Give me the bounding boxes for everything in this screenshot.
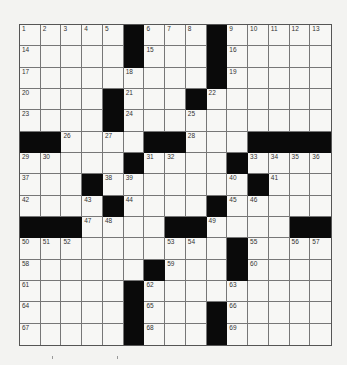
grid-cell[interactable]	[165, 174, 186, 195]
grid-cell[interactable]: 23	[20, 110, 41, 131]
grid-cell[interactable]: 36	[310, 153, 331, 174]
grid-cell[interactable]	[82, 302, 103, 323]
grid-cell[interactable]	[269, 324, 290, 345]
grid-cell[interactable]: 9	[227, 25, 248, 46]
grid-cell[interactable]: 7	[165, 25, 186, 46]
grid-cell[interactable]	[61, 302, 82, 323]
grid-cell[interactable]	[124, 238, 145, 259]
grid-cell[interactable]: 45	[227, 196, 248, 217]
grid-cell[interactable]	[248, 68, 269, 89]
grid-cell[interactable]	[186, 68, 207, 89]
grid-cell[interactable]: 32	[165, 153, 186, 174]
grid-cell[interactable]	[290, 110, 311, 131]
grid-cell[interactable]	[144, 238, 165, 259]
grid-cell[interactable]	[82, 132, 103, 153]
grid-cell[interactable]	[61, 89, 82, 110]
grid-cell[interactable]: 17	[20, 68, 41, 89]
grid-cell[interactable]: 64	[20, 302, 41, 323]
grid-cell[interactable]	[269, 196, 290, 217]
grid-cell[interactable]	[41, 68, 62, 89]
grid-cell[interactable]: 60	[248, 260, 269, 281]
grid-cell[interactable]	[103, 153, 124, 174]
grid-cell[interactable]	[186, 174, 207, 195]
grid-cell[interactable]	[144, 196, 165, 217]
grid-cell[interactable]: 34	[269, 153, 290, 174]
grid-cell[interactable]	[269, 110, 290, 131]
grid-cell[interactable]	[103, 238, 124, 259]
grid-cell[interactable]	[186, 46, 207, 67]
grid-cell[interactable]	[269, 217, 290, 238]
grid-cell[interactable]	[269, 46, 290, 67]
grid-cell[interactable]	[310, 302, 331, 323]
grid-cell[interactable]	[41, 174, 62, 195]
grid-cell[interactable]	[186, 324, 207, 345]
grid-cell[interactable]	[290, 46, 311, 67]
grid-cell[interactable]: 12	[290, 25, 311, 46]
grid-cell[interactable]: 6	[144, 25, 165, 46]
grid-cell[interactable]	[82, 68, 103, 89]
grid-cell[interactable]: 24	[124, 110, 145, 131]
grid-cell[interactable]	[227, 89, 248, 110]
grid-cell[interactable]	[41, 46, 62, 67]
grid-cell[interactable]: 30	[41, 153, 62, 174]
grid-cell[interactable]	[310, 110, 331, 131]
grid-cell[interactable]	[41, 324, 62, 345]
grid-cell[interactable]: 46	[248, 196, 269, 217]
grid-cell[interactable]: 26	[61, 132, 82, 153]
grid-cell[interactable]	[248, 302, 269, 323]
grid-cell[interactable]	[248, 324, 269, 345]
grid-cell[interactable]: 54	[186, 238, 207, 259]
grid-cell[interactable]	[290, 196, 311, 217]
grid-cell[interactable]	[310, 89, 331, 110]
grid-cell[interactable]	[103, 68, 124, 89]
grid-cell[interactable]: 41	[269, 174, 290, 195]
grid-cell[interactable]: 50	[20, 238, 41, 259]
grid-cell[interactable]: 20	[20, 89, 41, 110]
grid-cell[interactable]	[269, 302, 290, 323]
grid-cell[interactable]	[61, 281, 82, 302]
grid-cell[interactable]	[290, 89, 311, 110]
grid-cell[interactable]	[103, 281, 124, 302]
grid-cell[interactable]	[207, 260, 228, 281]
grid-cell[interactable]	[82, 153, 103, 174]
grid-cell[interactable]: 37	[20, 174, 41, 195]
grid-cell[interactable]	[186, 302, 207, 323]
grid-cell[interactable]	[186, 281, 207, 302]
grid-cell[interactable]	[41, 110, 62, 131]
grid-cell[interactable]: 61	[20, 281, 41, 302]
grid-cell[interactable]: 39	[124, 174, 145, 195]
grid-cell[interactable]: 19	[227, 68, 248, 89]
grid-cell[interactable]	[227, 132, 248, 153]
grid-cell[interactable]	[103, 302, 124, 323]
grid-cell[interactable]: 18	[124, 68, 145, 89]
grid-cell[interactable]	[248, 46, 269, 67]
grid-cell[interactable]: 44	[124, 196, 145, 217]
grid-cell[interactable]	[207, 153, 228, 174]
grid-cell[interactable]: 5	[103, 25, 124, 46]
grid-cell[interactable]	[124, 132, 145, 153]
grid-cell[interactable]: 1	[20, 25, 41, 46]
grid-cell[interactable]	[269, 68, 290, 89]
grid-cell[interactable]: 56	[290, 238, 311, 259]
grid-cell[interactable]	[227, 110, 248, 131]
grid-cell[interactable]	[248, 89, 269, 110]
grid-cell[interactable]	[41, 302, 62, 323]
grid-cell[interactable]: 4	[82, 25, 103, 46]
grid-cell[interactable]	[248, 110, 269, 131]
grid-cell[interactable]	[61, 174, 82, 195]
grid-cell[interactable]	[41, 260, 62, 281]
grid-cell[interactable]	[103, 260, 124, 281]
grid-cell[interactable]	[82, 89, 103, 110]
grid-cell[interactable]: 2	[41, 25, 62, 46]
grid-cell[interactable]: 15	[144, 46, 165, 67]
grid-cell[interactable]: 42	[20, 196, 41, 217]
grid-cell[interactable]	[103, 46, 124, 67]
grid-cell[interactable]: 68	[144, 324, 165, 345]
grid-cell[interactable]: 11	[269, 25, 290, 46]
grid-cell[interactable]	[186, 153, 207, 174]
grid-cell[interactable]: 22	[207, 89, 228, 110]
grid-cell[interactable]	[290, 324, 311, 345]
grid-cell[interactable]: 53	[165, 238, 186, 259]
grid-cell[interactable]: 66	[227, 302, 248, 323]
grid-cell[interactable]: 43	[82, 196, 103, 217]
